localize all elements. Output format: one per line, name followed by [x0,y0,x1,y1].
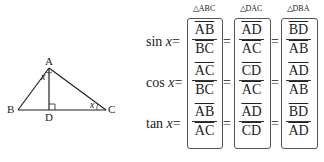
fraction: ABBC [187,22,222,57]
sin-label: sin x= [146,34,180,50]
vertex-d-label: D [45,111,53,123]
fraction: ADAB [281,63,316,98]
angle-x-label-c: x [90,99,94,110]
right-triangle-diagram: A B C D x x [0,0,160,162]
angle-x-label-a: x [41,71,45,82]
fraction: BDAB [281,22,316,57]
column-label-dac: △DAC [231,4,271,13]
vertex-b-label: B [7,103,14,115]
fraction: ACBC [187,63,222,98]
vertex-c-label: C [108,103,115,115]
column-label-dba: △DBA [278,4,318,13]
fraction: ABAC [187,104,222,139]
fraction: BDAD [281,104,316,139]
column-label-abc: △ABC [184,4,224,13]
triangle-figure [0,0,160,162]
fraction: CDAC [234,63,269,98]
fraction: ADCD [234,104,269,139]
cos-label: cos x= [146,75,182,91]
vertex-a-label: A [45,55,53,67]
tan-label: tan x= [146,116,181,132]
fraction: ADAC [234,22,269,57]
